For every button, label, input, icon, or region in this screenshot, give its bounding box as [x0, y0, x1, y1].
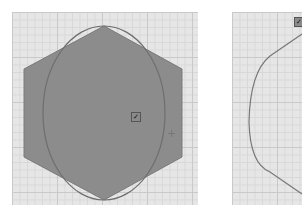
- left-drawing-canvas[interactable]: ✓: [12, 12, 198, 205]
- hexagon-shape[interactable]: [24, 26, 182, 200]
- right-shapes: [232, 12, 302, 205]
- checkbox-handle-icon[interactable]: ✓: [294, 17, 302, 27]
- checkbox-handle-icon[interactable]: ✓: [131, 112, 141, 122]
- right-drawing-canvas[interactable]: ✓: [232, 12, 302, 205]
- left-shapes: [12, 12, 198, 205]
- crosshair-icon: [168, 130, 175, 137]
- outline-shape[interactable]: [249, 34, 302, 194]
